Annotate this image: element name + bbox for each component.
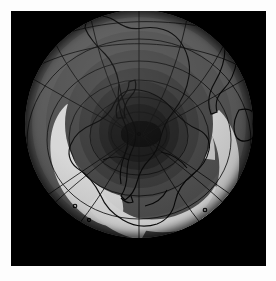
ozone-hole-core <box>121 121 161 147</box>
globe <box>25 11 253 238</box>
ozone-map-panel <box>11 11 266 266</box>
ozone-map-canvas <box>11 11 266 266</box>
figure-root: Grayscale orthographic projection of the… <box>0 0 276 281</box>
